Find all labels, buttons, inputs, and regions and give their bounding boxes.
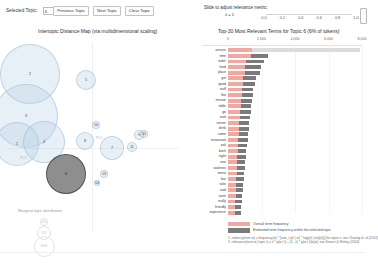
bar-topic-frequency [228, 93, 242, 97]
bar-row[interactable]: service [186, 48, 362, 53]
term-label: like [186, 93, 226, 98]
bar-row[interactable]: experience [186, 210, 362, 215]
bar-topic-frequency [228, 48, 252, 52]
bar-topic-frequency [228, 194, 236, 198]
bar-row[interactable]: night [186, 154, 362, 159]
bar-row[interactable]: time [186, 54, 362, 59]
footnote-line-2: 2. relevance(term w | topic t) = λ * p(w… [228, 240, 366, 244]
relevance-slider-label: Slide to adjust relevance metric: [204, 5, 268, 10]
bar-row[interactable]: restaurant [186, 138, 362, 143]
bar-row[interactable]: friendly [186, 205, 362, 210]
bar-chart-legend: Overall term frequency Estimated term fr… [228, 222, 363, 235]
term-label: said [186, 188, 226, 193]
bar-row[interactable]: server [186, 121, 362, 126]
term-label: even [186, 194, 226, 199]
bar-topic-frequency [228, 211, 235, 215]
term-label: ask [186, 143, 226, 148]
bar-topic-frequency [228, 144, 238, 148]
topic-bubble-label-13: 13 [102, 172, 106, 176]
bar-row[interactable]: ask [186, 143, 362, 148]
term-label: service [186, 48, 226, 53]
term-label: come [186, 132, 226, 137]
bar-row[interactable]: take [186, 182, 362, 187]
bar-row[interactable]: come [186, 132, 362, 137]
relevance-slider-control: Slide to adjust relevance metric: λ = 1 … [190, 4, 362, 25]
topbar: Selected Topic: 6 Previous Topic Next To… [0, 0, 365, 24]
legend-entry-overall: Overall term frequency [228, 222, 363, 226]
bar-row[interactable]: wait [186, 115, 362, 120]
intertopic-distance-map[interactable]: 2314581071191213614 PC1 PC2 Marginal top… [0, 36, 183, 262]
legend-entry-topic: Estimated term frequency within the sele… [228, 228, 363, 232]
relevance-slider-track[interactable] [266, 14, 352, 15]
topic-bubble-label-4: 4 [43, 140, 45, 144]
term-label: restaurant [186, 138, 226, 143]
topic-nav-buttons: Previous Topic Next Topic Clear Topic [53, 6, 154, 16]
x-tick-4: 8,000 [358, 37, 367, 41]
x-gridline-4 [362, 45, 363, 213]
topic-bubble-label-11: 11 [130, 145, 134, 149]
top-terms-bar-chart[interactable]: 02,0004,0006,0008,000 servicetimeorderfo… [186, 36, 365, 262]
bar-topic-frequency [228, 172, 237, 176]
relevance-slider-ticks: 0.00.20.40.60.81.0 [264, 16, 356, 22]
bar-topic-frequency [228, 110, 240, 114]
term-label: friendly [186, 205, 226, 210]
bar-row[interactable]: one [186, 160, 362, 165]
slider-tick-2: 0.4 [298, 16, 303, 20]
bar-row[interactable]: get [186, 76, 362, 81]
marginal-distribution-legend-title: Marginal topic distribution [18, 208, 138, 213]
term-label: menu [186, 171, 226, 176]
slider-tick-3: 0.6 [317, 16, 322, 20]
slider-tick-4: 0.8 [335, 16, 340, 20]
bar-row[interactable]: bar [186, 177, 362, 182]
bubble-size-label-2: 10% [40, 244, 47, 248]
term-label: one [186, 160, 226, 165]
slider-tick-0: 0.0 [261, 16, 266, 20]
relevance-slider-handle[interactable] [360, 8, 367, 24]
topic-bubble-label-1: 1 [16, 142, 18, 146]
bar-row[interactable]: really [186, 199, 362, 204]
clear-topic-button[interactable]: Clear Topic [125, 6, 155, 16]
bar-panel-title: Top-30 Most Relevant Terms for Topic 6 (… [218, 28, 340, 34]
previous-topic-button[interactable]: Previous Topic [53, 6, 89, 16]
bar-topic-frequency [228, 160, 237, 164]
bar-row[interactable]: good [186, 82, 362, 87]
bar-topic-frequency [228, 104, 241, 108]
term-label: experience [186, 210, 226, 215]
bar-topic-frequency [228, 60, 246, 64]
mds-panel-title: Intertopic Distance Map (via multidimens… [38, 28, 157, 34]
term-label: drink [186, 126, 226, 131]
topic-bubble-label-12: 12 [142, 132, 146, 136]
bar-row[interactable]: go [186, 110, 362, 115]
bar-row[interactable]: menu [186, 171, 362, 176]
bar-row[interactable]: said [186, 188, 362, 193]
bar-topic-frequency [228, 99, 241, 103]
term-label: table [186, 104, 226, 109]
x-tick-1: 2,000 [257, 37, 266, 41]
bar-topic-frequency [228, 149, 238, 153]
mds-pc1-label: PC1 [96, 136, 103, 140]
next-topic-button[interactable]: Next Topic [93, 6, 121, 16]
term-label: waitress [186, 166, 226, 171]
term-label: get [186, 76, 226, 81]
bar-row[interactable]: back [186, 149, 362, 154]
bar-row[interactable]: minute [186, 98, 362, 103]
term-label: good [186, 82, 226, 87]
topic-bubble-label-10: 10 [94, 123, 98, 127]
bar-topic-frequency [228, 116, 240, 120]
term-label: take [186, 182, 226, 187]
bar-row[interactable]: staff [186, 87, 362, 92]
bar-row[interactable]: even [186, 194, 362, 199]
bar-row[interactable]: waitress [186, 166, 362, 171]
bar-row[interactable]: table [186, 104, 362, 109]
bar-row[interactable]: drink [186, 126, 362, 131]
term-label: really [186, 199, 226, 204]
bar-row[interactable]: like [186, 93, 362, 98]
legend-swatch-overall [228, 222, 250, 226]
bar-row[interactable]: food [186, 65, 362, 70]
term-label: night [186, 154, 226, 159]
bar-row[interactable]: order [186, 59, 362, 64]
x-tick-0: 0 [227, 37, 229, 41]
bar-row[interactable]: place [186, 70, 362, 75]
topic-bubble-label-2: 2 [29, 72, 31, 76]
